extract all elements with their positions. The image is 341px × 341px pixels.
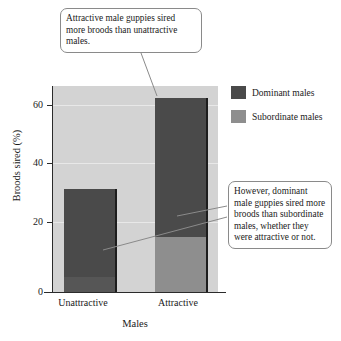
x-axis-title: Males (52, 318, 218, 329)
legend-label-dominant: Dominant males (252, 88, 315, 98)
legend-label-subordinate: Subordinate males (252, 112, 322, 122)
guppy-broods-figure: 60 40 20 0 Unattractive Attractive Brood… (0, 0, 341, 341)
bar-attractive-subordinate (155, 237, 206, 292)
y-axis-line (52, 86, 53, 293)
y-tick-60 (47, 105, 53, 106)
callout-top: Attractive male guppies sired more brood… (60, 8, 202, 53)
plot-area (52, 86, 218, 292)
legend-swatch-icon-subordinate (231, 110, 246, 123)
y-tick-20 (47, 222, 53, 223)
x-category-unattractive: Unattractive (38, 297, 128, 308)
legend-item-dominant[interactable]: Dominant males (231, 86, 341, 99)
bar-unattractive-subordinate (64, 277, 115, 292)
legend-item-subordinate[interactable]: Subordinate males (231, 110, 341, 123)
y-tick-label-0: 0 (17, 287, 43, 297)
y-axis-title: Broods sired (%) (11, 106, 22, 226)
legend-swatch-icon-dominant (231, 86, 246, 99)
x-category-attractive: Attractive (133, 297, 223, 308)
callout-right: However, dominant male guppies sired mor… (228, 181, 332, 249)
bar-unattractive[interactable] (64, 189, 117, 292)
x-axis-line (44, 292, 226, 293)
bar-attractive[interactable] (155, 98, 208, 292)
y-tick-0 (47, 292, 53, 293)
y-tick-40 (47, 163, 53, 164)
legend: Dominant males Subordinate males (231, 86, 341, 134)
